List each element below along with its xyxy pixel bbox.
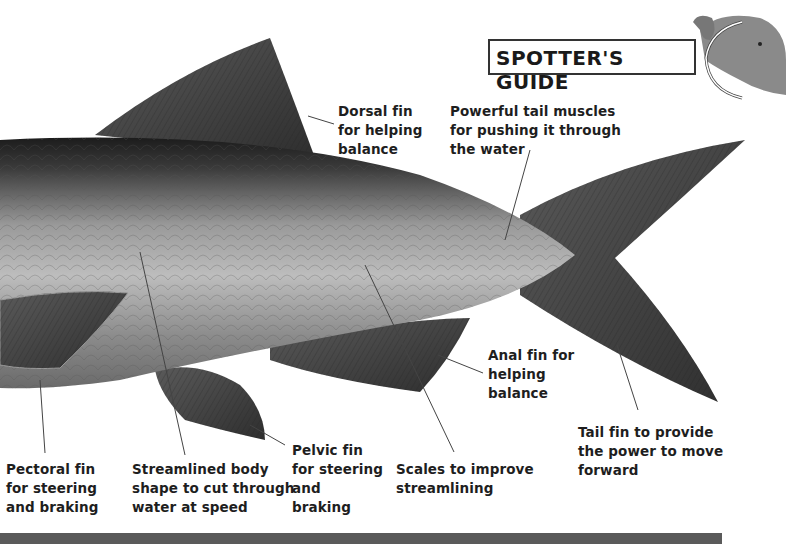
label-dorsal-fin: Dorsal fin for helping balance bbox=[338, 102, 423, 159]
mammoth-icon bbox=[693, 16, 786, 98]
label-streamlined-body: Streamlined body shape to cut through wa… bbox=[132, 460, 294, 517]
label-pectoral-fin: Pectoral fin for steering and braking bbox=[6, 460, 99, 517]
label-pelvic-fin: Pelvic fin for steering and braking bbox=[292, 441, 383, 517]
label-scales: Scales to improve streamlining bbox=[396, 460, 534, 498]
pelvic-fin-shape bbox=[155, 367, 265, 440]
badge-title: SPOTTER'S GUIDE bbox=[496, 46, 694, 94]
spotters-guide-badge: SPOTTER'S GUIDE bbox=[488, 39, 696, 75]
label-anal-fin: Anal fin for helping balance bbox=[488, 346, 574, 403]
label-tail-muscles: Powerful tail muscles for pushing it thr… bbox=[450, 102, 621, 159]
label-tail-fin: Tail fin to provide the power to move fo… bbox=[578, 423, 723, 480]
bottom-divider-bar bbox=[0, 533, 722, 544]
